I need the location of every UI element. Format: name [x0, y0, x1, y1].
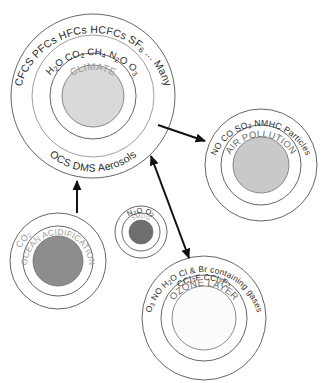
node-ocean-acidification[interactable]: CO2 OCEAN ACIDIFICATION [10, 213, 106, 309]
ocean-acidification-core [33, 236, 83, 286]
node-climate[interactable]: CFCS PFCs HFCs HCFCs SF6 ... Many H2O CO… [11, 14, 175, 178]
node-smog[interactable]: N2O O2 SMOG [115, 206, 167, 258]
environmental-issues-diagram: CFCS PFCs HFCs HCFCs SF6 ... Many H2O CO… [0, 0, 324, 383]
climate-bottom-ring-label: OCS DMS Aerosols [48, 148, 138, 174]
node-air-pollution[interactable]: NO CO SO2 NMHC Particles AIR POLLUTION [205, 109, 317, 221]
node-ozone-layer[interactable]: O3 NO H2O Cl & Br containing gases CCl3F… [142, 256, 266, 380]
smog-core [129, 220, 153, 244]
diagram-canvas: CFCS PFCs HFCs HCFCs SF6 ... Many H2O CO… [0, 0, 324, 383]
connector-climate-to-air-pollution [158, 125, 205, 141]
